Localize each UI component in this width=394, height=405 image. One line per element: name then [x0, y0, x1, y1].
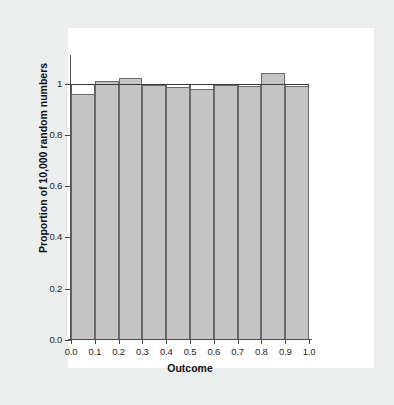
y-axis-tick — [65, 237, 70, 238]
figure-container: 0.00.10.20.30.40.50.60.70.80.91.00.00.20… — [0, 0, 394, 405]
plot-area — [71, 63, 309, 340]
observed-proportion-bar — [166, 87, 190, 340]
histogram-bar — [238, 63, 262, 340]
x-axis-tick — [238, 339, 239, 344]
x-axis-tick — [261, 339, 262, 344]
observed-proportion-bar — [238, 86, 262, 340]
observed-proportion-bar — [142, 85, 166, 340]
observed-proportion-bar — [71, 94, 95, 340]
x-axis-tick — [142, 339, 143, 344]
histogram-bar — [166, 63, 190, 340]
x-axis-tick — [71, 339, 72, 344]
x-axis-tick — [95, 339, 96, 344]
y-axis-tick-label: 0.0 — [28, 334, 62, 345]
histogram-bar — [71, 63, 95, 340]
reference-line-y1 — [71, 84, 309, 85]
histogram-bar — [119, 63, 143, 340]
x-axis-tick — [309, 339, 310, 344]
observed-proportion-bar — [214, 85, 238, 340]
histogram-bar — [285, 63, 309, 340]
x-axis-tick — [190, 339, 191, 344]
x-axis-title: Outcome — [68, 362, 312, 374]
x-axis-tick — [166, 339, 167, 344]
y-axis-tick — [65, 186, 70, 187]
y-axis-tick — [65, 135, 70, 136]
y-axis-tick — [65, 84, 70, 85]
histogram-bar — [261, 63, 285, 340]
y-axis-tick — [65, 340, 70, 341]
observed-proportion-bar — [95, 81, 119, 340]
histogram-bar — [142, 63, 166, 340]
observed-proportion-bar — [119, 78, 143, 340]
bars-group — [71, 63, 309, 340]
y-axis-tick — [65, 289, 70, 290]
histogram-bar — [190, 63, 214, 340]
x-axis-tick — [285, 339, 286, 344]
observed-proportion-bar — [285, 86, 309, 340]
histogram-bar — [214, 63, 238, 340]
y-axis-tick-label: 0.2 — [28, 283, 62, 294]
x-axis-tick — [119, 339, 120, 344]
y-axis-title: Proportion of 10,000 random numbers — [37, 33, 49, 283]
y-axis-line — [70, 55, 71, 341]
observed-proportion-bar — [261, 73, 285, 340]
x-axis-tick-label: 1.0 — [291, 346, 327, 357]
observed-proportion-bar — [190, 89, 214, 340]
histogram-bar — [95, 63, 119, 340]
x-axis-tick — [214, 339, 215, 344]
